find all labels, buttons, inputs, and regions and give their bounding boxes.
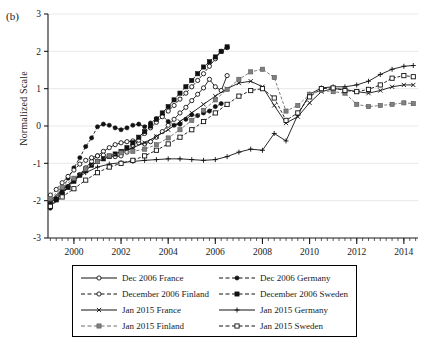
y-tick-label: 3 <box>36 9 41 19</box>
legend-key-dec2006-sweden <box>215 286 260 302</box>
x-tick-label: 2010 <box>300 247 319 257</box>
legend-label-dec2006-germany: Dec 2006 Germany <box>260 270 354 286</box>
y-tick-label: 2 <box>36 47 41 57</box>
x-tick-label: 2002 <box>112 247 131 257</box>
series-jan-2015-germany <box>48 63 416 203</box>
chart-legend: Dec 2006 France Dec 2006 Germany Decembe… <box>72 265 357 337</box>
legend-key-jan2015-france <box>79 302 122 318</box>
series-jan-2015-finland <box>48 67 415 201</box>
legend-label-jan2015-sweden: Jan 2015 Sweden <box>260 318 354 334</box>
legend-row: Dec 2006 France Dec 2006 Germany <box>79 270 354 286</box>
series-jan-2015-sweden <box>48 74 415 209</box>
legend-label-jan2015-germany: Jan 2015 Germany <box>260 302 354 318</box>
y-tick-label: -2 <box>33 196 41 206</box>
legend-key-dec2006-france <box>79 270 122 286</box>
legend-row: Jan 2015 Finland Jan 2015 Sweden <box>79 318 354 334</box>
legend-key-dec2006-finland <box>79 286 122 302</box>
legend-label-dec2006-finland: December 2006 Finland <box>122 286 215 302</box>
plot-area: -3-2-10123200020022004200620082010201220… <box>0 0 425 260</box>
x-tick-label: 2014 <box>394 247 413 257</box>
legend-row: Jan 2015 France Jan 2015 Germany <box>79 302 354 318</box>
y-tick-label: 1 <box>36 84 41 94</box>
legend-label-jan2015-finland: Jan 2015 Finland <box>122 318 215 334</box>
legend-label-dec2006-sweden: December 2006 Sweden <box>260 286 354 302</box>
legend-row: December 2006 Finland December 2006 Swed… <box>79 286 354 302</box>
legend-key-dec2006-germany <box>215 270 260 286</box>
x-tick-label: 2008 <box>253 247 272 257</box>
x-tick-label: 2004 <box>159 247 178 257</box>
series-dec-2006-germany <box>48 102 223 211</box>
legend-key-jan2015-sweden <box>215 318 260 334</box>
x-tick-label: 2012 <box>347 247 366 257</box>
chart-svg: -3-2-10123200020022004200620082010201220… <box>0 0 425 260</box>
x-tick-label: 2000 <box>64 247 83 257</box>
legend-label-dec2006-france: Dec 2006 France <box>122 270 215 286</box>
legend-key-jan2015-finland <box>79 318 122 334</box>
figure-panel: (b) Normalized Scale -3-2-10123200020022… <box>0 0 425 345</box>
legend-label-jan2015-france: Jan 2015 France <box>122 302 215 318</box>
x-tick-label: 2006 <box>206 247 225 257</box>
legend-key-jan2015-germany <box>215 302 260 318</box>
y-tick-label: -3 <box>33 233 41 243</box>
y-tick-label: -1 <box>33 159 41 169</box>
series-jan-2015-france <box>48 79 415 205</box>
y-tick-label: 0 <box>36 121 41 131</box>
